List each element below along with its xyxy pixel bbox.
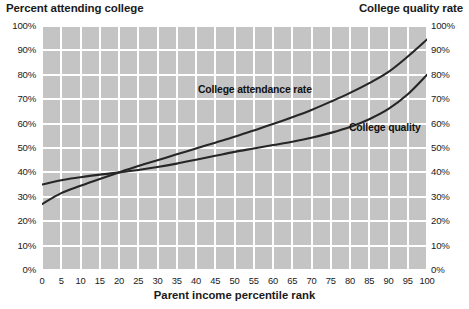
series-label-college-quality: College quality <box>349 122 421 133</box>
series-curves <box>42 26 427 270</box>
y-axis-left-tick-label: 10% <box>0 240 36 251</box>
y-axis-right-tick-label: 70% <box>431 93 469 104</box>
y-axis-left-tick-label: 90% <box>0 44 36 55</box>
right-axis-title: College quality rate <box>359 2 463 14</box>
y-axis-right-tick-label: 60% <box>431 118 469 129</box>
y-axis-left-tick-label: 80% <box>0 69 36 80</box>
y-axis-right-tick-label: 80% <box>431 69 469 80</box>
y-axis-right-tick-label: 50% <box>431 142 469 153</box>
y-axis-right-tick-label: 10% <box>431 240 469 251</box>
y-axis-right-tick-label: 20% <box>431 215 469 226</box>
y-axis-left-tick-label: 60% <box>0 118 36 129</box>
y-axis-right-tick-label: 40% <box>431 166 469 177</box>
left-axis-title: Percent attending college <box>6 2 143 14</box>
plot-area <box>42 26 427 270</box>
chart-figure: Percent attending college College qualit… <box>0 0 469 309</box>
y-axis-left-tick-label: 30% <box>0 191 36 202</box>
y-axis-left-tick-label: 70% <box>0 93 36 104</box>
y-axis-right-tick-label: 30% <box>431 191 469 202</box>
series-label-college-attendance-rate: College attendance rate <box>198 84 312 95</box>
y-axis-left-tick-label: 100% <box>0 20 36 31</box>
y-axis-left-tick-label: 50% <box>0 142 36 153</box>
y-axis-right-tick-label: 100% <box>431 20 469 31</box>
x-axis-title: Parent income percentile rank <box>0 289 469 301</box>
y-axis-left-tick-label: 40% <box>0 166 36 177</box>
y-axis-right-tick-label: 0% <box>431 264 469 275</box>
x-axis-tick-label: 100 <box>413 275 441 286</box>
y-axis-right-tick-label: 90% <box>431 44 469 55</box>
y-axis-left-tick-label: 0% <box>0 264 36 275</box>
y-axis-left-tick-label: 20% <box>0 215 36 226</box>
